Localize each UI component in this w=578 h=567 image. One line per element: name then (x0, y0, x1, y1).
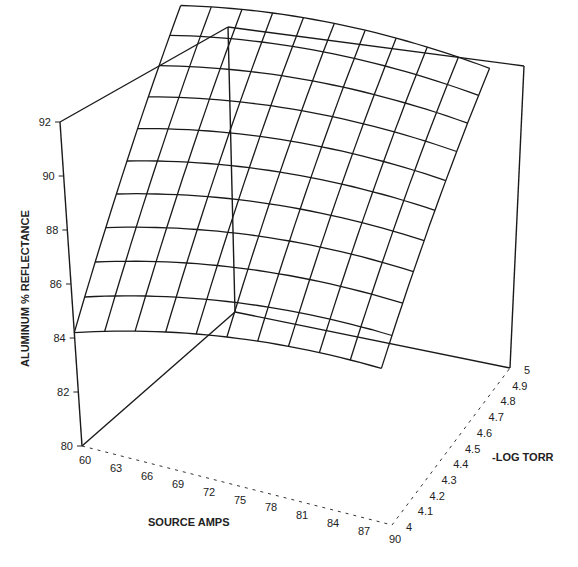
box-frame (60, 27, 524, 446)
mesh-line (181, 6, 490, 69)
y-tick-label: 4 (406, 521, 412, 533)
x-tick-label: 72 (203, 486, 215, 498)
x-tick-label: 69 (172, 478, 184, 490)
z-axis-ticks: 80828486889092 (39, 116, 82, 452)
mesh-line (135, 9, 242, 331)
mesh-line (105, 7, 212, 331)
z-tick-label: 80 (61, 440, 73, 452)
x-tick-label: 90 (389, 533, 401, 545)
y-tick-label: 4.6 (477, 427, 492, 439)
floor-axes (82, 368, 510, 525)
mesh-line (159, 66, 468, 123)
z-tick-label: 88 (46, 224, 58, 236)
mesh-line (166, 13, 273, 332)
mesh-line (74, 331, 381, 368)
surface-chart: 80828486889092 6063666972757881848790 44… (0, 0, 578, 567)
z-tick-label: 92 (39, 116, 51, 128)
y-axis-ticks: 44.14.24.34.44.54.64.74.84.95 (406, 364, 530, 533)
y-tick-label: 4.4 (453, 458, 468, 470)
mesh-line (170, 35, 479, 95)
x-axis-ticks: 6063666972757881848790 (79, 454, 401, 545)
y-tick-label: 4.9 (512, 380, 527, 392)
mesh-line (289, 38, 397, 346)
y-tick-label: 4.8 (500, 395, 515, 407)
x-tick-label: 78 (265, 501, 277, 513)
x-tick-label: 63 (110, 462, 122, 474)
y-tick-label: 4.2 (430, 490, 445, 502)
x-tick-label: 81 (296, 509, 308, 521)
x-tick-label: 87 (358, 525, 370, 537)
z-tick-label: 86 (50, 278, 62, 290)
mesh-line (74, 6, 180, 333)
mesh-line (319, 47, 427, 353)
y-tick-label: 4.1 (418, 505, 433, 517)
y-tick-label: 4.5 (465, 443, 480, 455)
surface-mesh (74, 6, 489, 369)
x-tick-label: 66 (141, 470, 153, 482)
mesh-line (196, 18, 303, 334)
z-tick-label: 90 (42, 170, 54, 182)
z-axis-label: ALUMINUM % REFLECTANCE (19, 210, 31, 367)
z-tick-label: 84 (53, 332, 65, 344)
y-tick-label: 4.3 (441, 474, 456, 486)
y-axis-label: -LOG TORR (492, 451, 554, 463)
z-tick-label: 82 (57, 386, 69, 398)
y-tick-label: 5 (524, 364, 530, 376)
x-tick-label: 60 (79, 454, 91, 466)
y-tick-label: 4.7 (489, 411, 504, 423)
x-tick-label: 84 (327, 517, 339, 529)
x-axis-label: SOURCE AMPS (148, 516, 230, 528)
x-tick-label: 75 (234, 494, 246, 506)
